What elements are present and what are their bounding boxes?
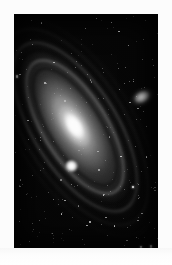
star-point [53,238,54,239]
star-point [53,235,54,236]
star-point [32,223,33,224]
star-point [61,40,62,41]
star-point [25,149,26,150]
star-point [60,179,61,180]
star-point [120,156,122,158]
star-point [105,160,106,161]
star-point [52,233,53,234]
star-point [118,68,119,69]
star-point [138,195,139,196]
star-point [29,241,30,242]
star-point [101,20,102,21]
star-point [68,171,69,172]
star-point [133,16,134,17]
star-point [16,50,17,51]
star-point [41,22,42,23]
plate-bottom-margin [0,248,172,265]
star-point [40,170,41,171]
galaxy-outer-halo [14,14,158,248]
star-point [40,104,41,105]
star-point [105,217,106,218]
star-point [53,242,54,243]
star-point [133,79,134,80]
star-point [27,193,28,194]
star-point [137,108,138,109]
star-point [76,105,77,106]
star-point [124,245,125,246]
spiral-arm-band-2 [14,22,158,232]
star-point [126,18,127,19]
star-point [130,182,131,183]
star-point [109,136,110,137]
star-point [111,22,113,24]
star-point [16,75,18,77]
dust-lane-2 [14,31,155,223]
star-point [150,155,151,156]
star-point [86,225,88,227]
star-point [32,175,33,176]
star-point [28,139,29,140]
star-point [80,141,81,142]
star-point [154,190,155,191]
star-point [149,222,150,223]
star-point [48,192,49,193]
star-point [29,149,30,150]
star-point [136,119,137,120]
star-field [14,14,158,248]
star-point [19,185,20,186]
sky-exposure-area [14,14,158,248]
star-point [85,28,86,29]
star-point [21,52,22,53]
star-point [124,114,125,115]
star-point [80,112,81,113]
star-point [30,39,31,40]
star-point [81,65,82,66]
star-point [32,231,33,232]
star-point [76,61,77,62]
star-point [138,184,139,185]
star-point [39,149,40,150]
star-point [84,244,85,245]
star-point [63,155,64,156]
star-point [106,126,107,127]
star-point [81,154,82,155]
star-point [20,179,21,180]
star-point [53,141,54,142]
star-point [40,140,41,141]
galaxy-edge-feather [14,14,158,248]
star-point [81,51,82,52]
star-point [78,174,79,175]
star-point [97,151,99,153]
galaxy-nucleus-core [62,111,88,140]
star-point [117,63,118,64]
star-point [136,237,137,238]
star-point [124,83,125,84]
dust-lane-4 [14,14,158,248]
star-point [67,72,68,73]
star-point [137,183,138,184]
star-point [107,185,108,186]
star-point [153,65,154,66]
star-point [124,189,125,190]
spiral-arm-band-1 [14,44,144,210]
star-point [44,162,45,163]
star-point [113,132,114,133]
star-point [102,68,103,69]
star-point [124,171,125,172]
star-point [46,83,47,84]
star-point [62,199,63,200]
star-point [82,239,83,240]
star-point [143,111,144,112]
star-point [155,182,156,183]
star-point [71,110,72,111]
star-point [74,139,75,140]
star-point [128,45,129,46]
star-point [157,238,158,239]
star-point [81,97,82,98]
star-point [112,179,113,180]
star-point [94,181,95,182]
star-point [129,180,130,181]
star-point [22,184,23,185]
star-point [43,168,44,169]
star-point [118,31,120,33]
